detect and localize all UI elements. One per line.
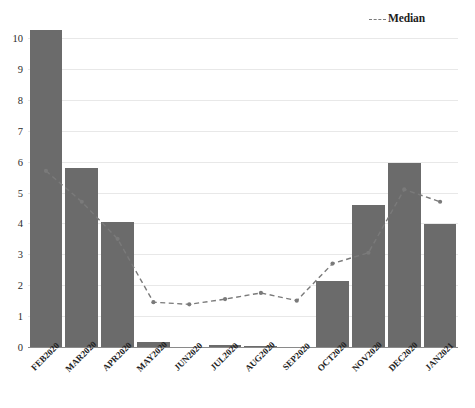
median-line-swatch-icon bbox=[369, 19, 386, 20]
bar-slot bbox=[315, 38, 351, 347]
bar[interactable] bbox=[424, 224, 457, 347]
bar-slot bbox=[171, 38, 207, 347]
bar-slot bbox=[100, 38, 136, 347]
x-label-slot: FEB2020 bbox=[28, 349, 64, 407]
bar[interactable] bbox=[388, 163, 421, 347]
y-axis-tick-label: 9 bbox=[18, 63, 23, 74]
x-label-slot: NOV2020 bbox=[350, 349, 386, 407]
bar-slot bbox=[350, 38, 386, 347]
y-axis-tick-label: 10 bbox=[13, 33, 24, 44]
bar-slot bbox=[422, 38, 458, 347]
x-axis-tick-labels: FEB2020MAR2020APR2020MAY2020JUN2020JUL20… bbox=[28, 349, 458, 407]
x-label-slot: SEP2020 bbox=[279, 349, 315, 407]
x-label-slot: MAR2020 bbox=[64, 349, 100, 407]
bar-chart-with-median-line: Median 012345678910 FEB2020MAR2020APR202… bbox=[0, 0, 475, 408]
bar-slot bbox=[279, 38, 315, 347]
bar[interactable] bbox=[352, 205, 385, 347]
y-axis-tick-label: 0 bbox=[18, 342, 23, 353]
y-axis-tick-label: 6 bbox=[18, 156, 23, 167]
y-axis-tick-label: 5 bbox=[18, 187, 23, 198]
chart-legend: Median bbox=[369, 10, 425, 26]
plot-area: 012345678910 bbox=[28, 38, 458, 347]
bar-slot bbox=[207, 38, 243, 347]
x-label-slot: MAY2020 bbox=[135, 349, 171, 407]
legend-item-median-label: Median bbox=[388, 12, 425, 24]
bar-slot bbox=[386, 38, 422, 347]
x-label-slot: JUN2020 bbox=[171, 349, 207, 407]
y-axis-tick-label: 4 bbox=[18, 218, 23, 229]
bar-slot bbox=[64, 38, 100, 347]
bar-slot bbox=[135, 38, 171, 347]
bar[interactable] bbox=[65, 168, 98, 347]
x-label-slot: JUL2020 bbox=[207, 349, 243, 407]
y-axis-tick-label: 3 bbox=[18, 249, 23, 260]
x-label-slot: DEC2020 bbox=[386, 349, 422, 407]
bar[interactable] bbox=[30, 30, 63, 347]
x-label-slot: AUG2020 bbox=[243, 349, 279, 407]
bar[interactable] bbox=[316, 281, 349, 347]
bar-slot bbox=[28, 38, 64, 347]
y-axis-tick-label: 7 bbox=[18, 125, 23, 136]
bar-slot bbox=[243, 38, 279, 347]
x-label-slot: OCT2020 bbox=[315, 349, 351, 407]
bar[interactable] bbox=[101, 222, 134, 347]
y-axis-tick-label: 2 bbox=[18, 280, 23, 291]
bars-group bbox=[28, 38, 458, 347]
y-axis-tick-label: 8 bbox=[18, 94, 23, 105]
y-axis-tick-label: 1 bbox=[18, 311, 23, 322]
x-label-slot: JAN2021 bbox=[422, 349, 458, 407]
x-label-slot: APR2020 bbox=[100, 349, 136, 407]
